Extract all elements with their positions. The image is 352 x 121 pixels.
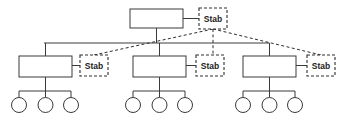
staff-box-1-label: Stab [85, 61, 103, 71]
leaf-circle-1-1[interactable] [12, 98, 27, 113]
leaf-circle-2-3[interactable] [178, 98, 193, 113]
org-chart-diagram: Stab Stab Stab Stab [0, 0, 352, 121]
leaf-circle-1-3[interactable] [64, 98, 79, 113]
staff-box-top[interactable]: Stab [199, 8, 227, 29]
staff-box-2[interactable]: Stab [196, 55, 224, 76]
staff-box-2-label: Stab [201, 61, 219, 71]
staff-box-1[interactable]: Stab [80, 55, 108, 76]
top-unit-box[interactable] [130, 9, 183, 28]
dashed-link-top-staff-to-staff-1 [94, 29, 213, 55]
leaf-circles [12, 98, 303, 113]
dashed-staff-connectors [94, 29, 321, 55]
staff-box-top-label: Stab [204, 14, 222, 24]
staff-box-3-label: Stab [312, 61, 330, 71]
leaf-circle-3-1[interactable] [236, 98, 251, 113]
leaf-circle-3-3[interactable] [288, 98, 303, 113]
staff-box-3[interactable]: Stab [307, 55, 335, 76]
dashed-link-top-staff-to-staff-3 [213, 29, 321, 55]
leaf-circle-2-1[interactable] [126, 98, 141, 113]
division-box-2[interactable] [133, 56, 186, 77]
division-box-1[interactable] [19, 56, 72, 77]
leaf-circle-1-2[interactable] [38, 98, 53, 113]
leaf-circle-2-2[interactable] [152, 98, 167, 113]
division-box-3[interactable] [243, 56, 296, 77]
org-chart-canvas: Stab Stab Stab Stab [0, 0, 352, 121]
leaf-circle-3-2[interactable] [262, 98, 277, 113]
